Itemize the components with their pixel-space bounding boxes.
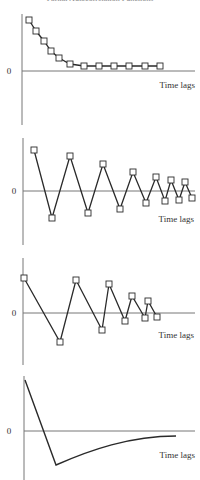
- square-marker: [126, 63, 132, 69]
- square-marker: [157, 63, 163, 69]
- square-marker: [106, 281, 112, 287]
- square-marker: [73, 277, 79, 283]
- square-marker: [33, 28, 39, 34]
- zero-tick-label: 0: [12, 186, 17, 196]
- square-marker: [96, 63, 102, 69]
- square-marker: [154, 314, 160, 320]
- figure-title: Partial Autocorrelation Functions: [0, 0, 200, 3]
- acf-panel-1: 0Time lags: [7, 14, 196, 125]
- square-marker: [117, 206, 123, 212]
- x-axis-label: Time lags: [160, 450, 196, 460]
- x-axis-label: Time lags: [159, 330, 195, 340]
- square-marker: [168, 177, 174, 183]
- square-marker: [67, 61, 73, 67]
- acf-panel-2: 0Time lags: [12, 138, 195, 245]
- square-marker: [41, 38, 47, 44]
- x-axis-label: Time lags: [159, 214, 195, 224]
- square-marker: [21, 275, 27, 281]
- acf-panel-3: 0Time lags: [12, 258, 195, 365]
- square-marker: [176, 197, 182, 203]
- chart-canvas: 0Time lags0Time lags0Time lags0Time lags: [0, 0, 200, 480]
- square-marker: [182, 179, 188, 185]
- square-marker: [153, 174, 159, 180]
- square-marker: [143, 200, 149, 206]
- square-marker: [142, 63, 148, 69]
- acf-line: [24, 278, 157, 342]
- square-marker: [67, 153, 73, 159]
- square-marker: [122, 318, 128, 324]
- square-marker: [31, 147, 37, 153]
- square-marker: [85, 210, 91, 216]
- square-marker: [142, 315, 148, 321]
- square-marker: [99, 327, 105, 333]
- square-marker: [100, 161, 106, 167]
- square-marker: [162, 198, 168, 204]
- x-axis-label: Time lags: [160, 80, 196, 90]
- acf-curve: [25, 380, 176, 465]
- square-marker: [130, 169, 136, 175]
- square-marker: [81, 63, 87, 69]
- acf-line: [34, 150, 192, 218]
- zero-tick-label: 0: [7, 426, 12, 436]
- zero-tick-label: 0: [12, 308, 17, 318]
- square-marker: [111, 63, 117, 69]
- square-marker: [49, 215, 55, 221]
- square-marker: [189, 195, 195, 201]
- acf-figure: Partial Autocorrelation Functions 0Time …: [0, 0, 200, 480]
- acf-line: [29, 20, 160, 66]
- zero-tick-label: 0: [7, 66, 12, 76]
- square-marker: [145, 298, 151, 304]
- square-marker: [56, 55, 62, 61]
- square-marker: [48, 48, 54, 54]
- acf-panel-4: 0Time lags: [7, 376, 196, 480]
- square-marker: [129, 293, 135, 299]
- square-marker: [26, 17, 32, 23]
- square-marker: [57, 339, 63, 345]
